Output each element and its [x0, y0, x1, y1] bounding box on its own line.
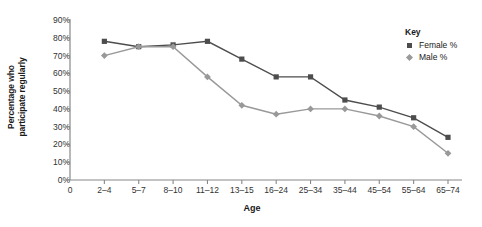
x-axis-title: Age [0, 203, 482, 213]
legend: Key Female % Male % [405, 27, 457, 64]
x-tick-label: 2–4 [97, 185, 111, 195]
x-tick-label: 45–54 [367, 185, 391, 195]
x-tick-label: 13–15 [230, 185, 254, 195]
x-tick-label: 16–24 [264, 185, 288, 195]
x-tick-label: 55–64 [402, 185, 426, 195]
x-axis-title-label: Age [243, 203, 260, 213]
legend-label-male: Male % [419, 52, 447, 62]
x-tick-label: 11–12 [196, 185, 219, 195]
x-tick-label: 8–10 [164, 185, 183, 195]
x-tick-label: 65–74 [436, 185, 460, 195]
x-tick-label: 5–7 [132, 185, 146, 195]
legend-item-female: Female % [405, 40, 457, 50]
legend-square-icon [405, 40, 415, 50]
chart-container: Percentage who participate regularly 90%… [0, 0, 482, 227]
legend-item-male: Male % [405, 52, 457, 62]
legend-diamond-icon [405, 52, 415, 62]
legend-title: Key [405, 27, 457, 37]
legend-label-female: Female % [419, 40, 457, 50]
x-tick-label: 35–44 [333, 185, 357, 195]
x-tick-label: 0 [68, 185, 73, 195]
x-tick-label: 25–34 [299, 185, 323, 195]
